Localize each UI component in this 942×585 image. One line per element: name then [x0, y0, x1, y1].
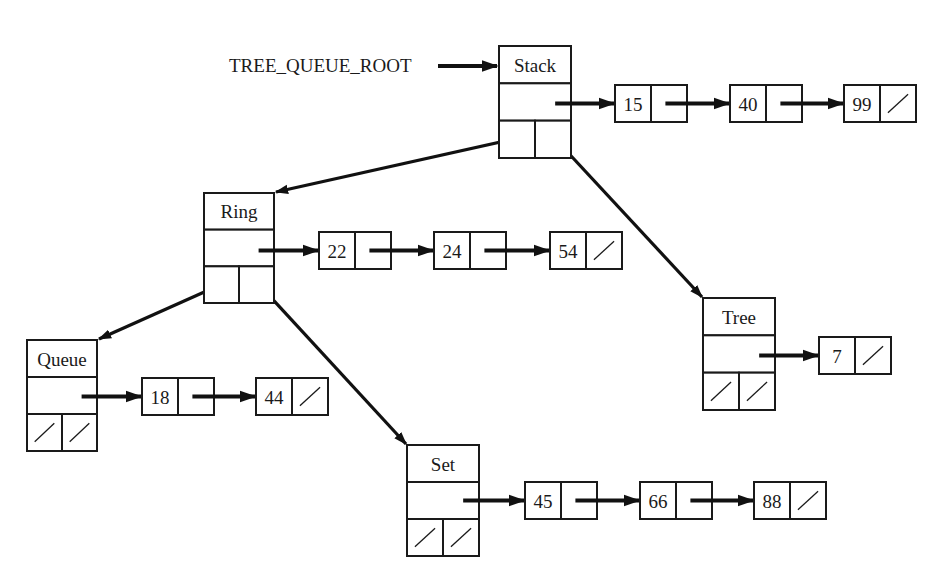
root-pointer: TREE_QUEUE_ROOT	[229, 55, 497, 76]
list-value: 22	[328, 241, 347, 262]
node-name-label: Queue	[37, 349, 87, 370]
right-child-arrow-icon	[551, 134, 702, 297]
left-child-cell	[499, 121, 535, 158]
list-value: 44	[265, 387, 285, 408]
list-value: 66	[649, 491, 668, 512]
right-child-arrow-icon	[255, 280, 406, 444]
list-value: 99	[853, 94, 872, 115]
linked-list-queue: 1844	[82, 378, 328, 415]
list-value: 15	[624, 94, 643, 115]
linked-list-set: 456688	[463, 482, 826, 519]
left-child-arrow-icon	[276, 137, 521, 192]
list-element: 99	[844, 85, 916, 122]
left-child-cell	[204, 266, 239, 303]
linked-list-tree: 7	[759, 337, 891, 374]
list-element: 22	[319, 232, 433, 269]
linked-list-ring: 222454	[259, 232, 622, 269]
right-child-cell	[535, 121, 571, 158]
list-element: 66	[640, 482, 753, 519]
list-element: 45	[525, 482, 639, 519]
linked-list-stack: 154099	[555, 85, 916, 122]
list-element: 40	[730, 85, 843, 122]
list-element: 24	[434, 232, 549, 269]
list-value: 88	[763, 491, 782, 512]
list-value: 24	[443, 241, 463, 262]
right-child-cell	[239, 266, 274, 303]
node-name-label: Ring	[221, 201, 258, 222]
node-name-label: Stack	[514, 55, 557, 76]
node-name-label: Tree	[722, 307, 756, 328]
tree-node-ring: Ring	[204, 193, 274, 303]
list-value: 45	[534, 491, 553, 512]
list-value: 40	[739, 94, 758, 115]
list-value: 54	[559, 241, 579, 262]
list-element: 7	[819, 337, 891, 374]
list-value: 18	[151, 387, 170, 408]
list-value: 7	[832, 346, 842, 367]
node-name-label: Set	[431, 454, 456, 475]
tree-of-linked-lists-diagram: TREE_QUEUE_ROOT StackRingQueueTreeSet 15…	[0, 0, 942, 585]
list-element: 18	[142, 378, 255, 415]
list-element: 54	[550, 232, 622, 269]
root-label: TREE_QUEUE_ROOT	[229, 55, 412, 76]
list-element: 15	[615, 85, 729, 122]
list-element: 88	[754, 482, 826, 519]
list-element: 44	[256, 378, 328, 415]
node-list-pointer-cell	[204, 230, 274, 267]
